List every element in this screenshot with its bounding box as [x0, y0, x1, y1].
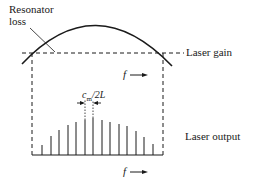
resonator-loss-label-line2: loss [9, 16, 26, 27]
gain-curve [22, 25, 172, 66]
longitudinal-modes [42, 118, 153, 155]
laser-gain-label: Laser gain [186, 47, 232, 58]
mode-spacing-label: cm/2L [82, 89, 105, 105]
resonator-loss-label-line1: Resonator [9, 4, 54, 15]
laser-mode-diagram [0, 0, 258, 186]
freq-arrow-top-head-icon [142, 73, 148, 77]
mode-spacing-rest: /2L [92, 89, 105, 100]
laser-output-label: Laser output [185, 131, 240, 142]
freq-axis-top-label: f [123, 69, 126, 80]
freq-arrow-bottom-head-icon [142, 170, 148, 174]
freq-axis-bottom-label: f [123, 166, 126, 177]
